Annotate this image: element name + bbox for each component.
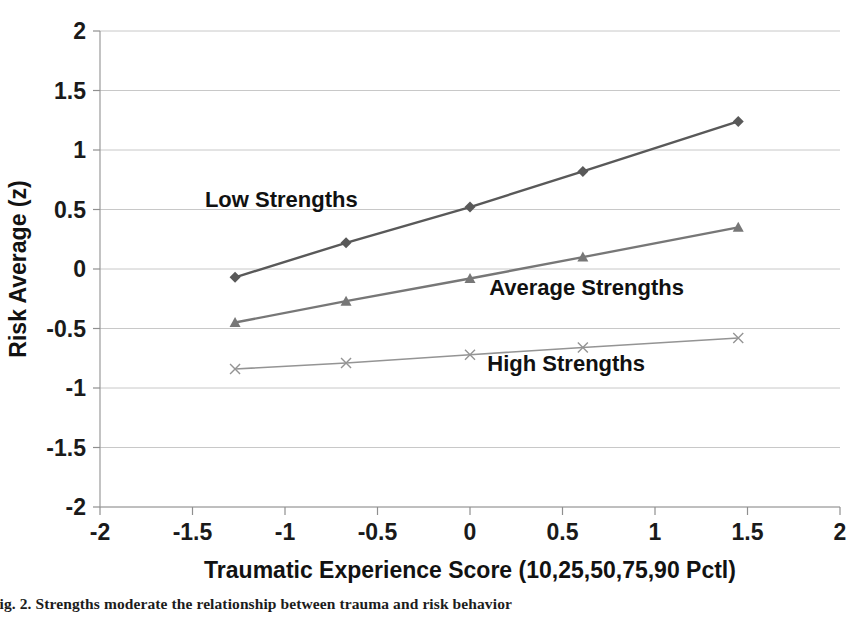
data-point-marker (733, 222, 744, 232)
y-axis-title: Risk Average (z) (5, 180, 31, 357)
series-label-high-strengths: High Strengths (487, 351, 645, 376)
x-tick-label: 1 (649, 519, 662, 545)
figure-caption: Fig. 2. Strengths moderate the relations… (0, 598, 862, 617)
data-point-marker (733, 116, 744, 127)
y-tick-label: 0 (73, 256, 86, 282)
x-tick-label: 2 (834, 519, 847, 545)
x-tick-label: 1.5 (732, 519, 764, 545)
series-label-average-strengths: Average Strengths (489, 275, 684, 300)
y-tick-label: 2 (73, 18, 86, 44)
x-tick-label: 0 (464, 519, 477, 545)
y-tick-label: 0.5 (54, 197, 86, 223)
data-point-marker (577, 166, 588, 177)
y-tick-label: -1.5 (46, 435, 86, 461)
y-tick-label: -1 (66, 375, 87, 401)
figure-container: 21.510.50-0.5-1-1.5-2-2-1.5-1-0.500.511.… (0, 0, 862, 617)
figure-caption-text: Fig. 2. Strengths moderate the relations… (0, 598, 512, 613)
x-tick-label: -1 (275, 519, 296, 545)
series-label-low-strengths: Low Strengths (205, 187, 358, 212)
y-tick-label: 1.5 (54, 78, 86, 104)
x-axis-title: Traumatic Experience Score (10,25,50,75,… (204, 557, 736, 583)
data-point-marker (230, 272, 241, 283)
x-tick-label: 0.5 (547, 519, 579, 545)
y-tick-label: -0.5 (46, 316, 86, 342)
x-tick-label: -1.5 (173, 519, 213, 545)
data-point-marker (465, 202, 476, 213)
y-tick-label: 1 (73, 137, 86, 163)
x-tick-label: -0.5 (358, 519, 398, 545)
data-point-marker (341, 237, 352, 248)
line-chart: 21.510.50-0.5-1-1.5-2-2-1.5-1-0.500.511.… (0, 0, 862, 617)
y-tick-label: -2 (66, 494, 86, 520)
x-tick-label: -2 (90, 519, 110, 545)
